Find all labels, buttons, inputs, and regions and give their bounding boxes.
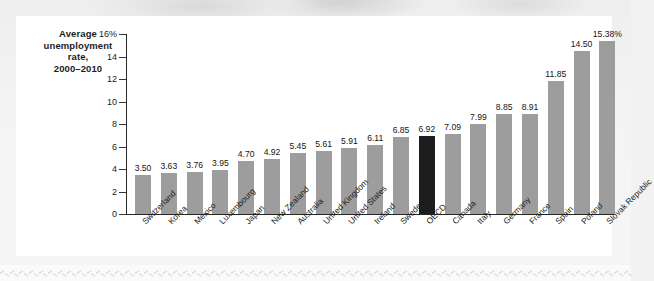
scallop-caret-icon [489, 269, 499, 278]
bar-value-label: 6.92 [418, 124, 435, 134]
scallop-caret-icon [624, 269, 634, 278]
scallop-caret-icon [125, 269, 135, 278]
bar-column[interactable]: 11.85 [548, 81, 564, 214]
bar-value-label: 3.95 [212, 158, 229, 168]
scallop-caret-icon [134, 269, 144, 278]
bar-value-label: 11.85 [545, 69, 566, 79]
bar-column[interactable]: 3.50 [135, 175, 151, 214]
y-tick-mark [119, 34, 126, 35]
bar[interactable] [548, 81, 564, 214]
y-tick-label: 4 [112, 164, 117, 174]
scallop-caret-icon [154, 269, 164, 278]
bar-value-label: 5.61 [315, 139, 332, 149]
bar-value-label: 6.85 [393, 125, 410, 135]
y-tick-mark [119, 214, 126, 215]
scallop-caret-icon [173, 269, 183, 278]
scallop-caret-icon [19, 269, 29, 278]
bar-column[interactable]: 6.85 [393, 137, 409, 214]
scallop-caret-icon [470, 269, 480, 278]
scallop-caret-icon [58, 269, 68, 278]
scallop-caret-icon [556, 269, 566, 278]
scallop-caret-icon [393, 269, 403, 278]
scallop-caret-icon [326, 269, 336, 278]
scallop-caret-icon [528, 269, 538, 278]
scallop-caret-icon [230, 269, 240, 278]
y-tick-label: 16% [99, 29, 117, 39]
scallop-caret-icon [461, 269, 471, 278]
bar[interactable] [496, 114, 512, 214]
scallop-caret-icon [201, 269, 211, 278]
scallop-caret-icon [278, 269, 288, 278]
scallop-caret-icon [38, 269, 48, 278]
scallop-caret-icon [518, 269, 528, 278]
bar-column[interactable]: 15.38% [599, 41, 615, 214]
bar-series: 3.503.633.763.954.704.925.455.615.916.11… [126, 34, 614, 214]
bar-value-label: 5.91 [341, 136, 358, 146]
scallop-caret-icon [317, 269, 327, 278]
scallop-caret-icon [163, 269, 173, 278]
scallop-caret-icon [106, 269, 116, 278]
scallop-caret-icon [441, 269, 451, 278]
scallop-caret-icon [48, 269, 58, 278]
scallop-caret-icon [144, 269, 154, 278]
y-tick-mark [119, 102, 126, 103]
scallop-caret-icon [614, 269, 624, 278]
scallop-caret-icon [547, 269, 557, 278]
bar[interactable] [599, 41, 615, 214]
scallop-caret-icon [374, 269, 384, 278]
scallop-caret-icon [29, 269, 39, 278]
plot-area: 16%14121086420 3.503.633.763.954.704.925… [126, 34, 618, 216]
bar-value-label: 4.92 [264, 147, 281, 157]
scallop-caret-icon [537, 269, 547, 278]
bar[interactable] [187, 172, 203, 214]
bar[interactable] [445, 134, 461, 214]
bar[interactable] [135, 175, 151, 214]
scallop-caret-icon [499, 269, 509, 278]
y-tick-label: 6 [112, 142, 117, 152]
y-tick-label: 0 [112, 209, 117, 219]
scallop-caret-icon [345, 269, 355, 278]
bar-column[interactable]: 14.50 [574, 51, 590, 214]
scallop-caret-icon [566, 269, 576, 278]
scallop-caret-icon [288, 269, 298, 278]
chart-card: Average unemployment rate, 2000–2010 16%… [16, 16, 612, 256]
scallop-caret-icon [451, 269, 461, 278]
bar[interactable] [574, 51, 590, 214]
decorative-scallop-strip [0, 265, 631, 281]
bar[interactable] [393, 137, 409, 214]
scallop-caret-icon [365, 269, 375, 278]
bar-value-label: 6.11 [367, 133, 383, 143]
bar[interactable] [264, 159, 280, 214]
scallop-caret-icon [0, 269, 10, 278]
scallop-caret-icon [77, 269, 87, 278]
scallop-caret-icon [297, 269, 307, 278]
bar-value-label: 7.99 [470, 112, 487, 122]
bar-value-label: 4.70 [238, 149, 255, 159]
y-axis-title-line-2: unemployment [30, 40, 126, 52]
scallop-caret-icon [192, 269, 202, 278]
scallop-caret-icon [355, 269, 365, 278]
scallop-caret-icon [384, 269, 394, 278]
bar-column[interactable]: 4.92 [264, 159, 280, 214]
bar-column[interactable]: 7.09 [445, 134, 461, 214]
y-tick-mark [119, 169, 126, 170]
bar-value-label: 8.85 [496, 102, 513, 112]
scallop-caret-icon [259, 269, 269, 278]
bar-column[interactable]: 8.85 [496, 114, 512, 214]
scallop-caret-icon [86, 269, 96, 278]
bar-column[interactable]: 3.76 [187, 172, 203, 214]
bar-value-label: 7.09 [444, 122, 461, 132]
scallop-caret-icon [413, 269, 423, 278]
scallop-caret-icon [422, 269, 432, 278]
y-tick-label: 2 [112, 187, 117, 197]
scallop-caret-icon [96, 269, 106, 278]
y-tick-mark [119, 147, 126, 148]
scallop-caret-icon [604, 269, 614, 278]
scallop-caret-icon [576, 269, 586, 278]
bar-value-label: 14.50 [571, 39, 593, 49]
scallop-caret-icon [240, 269, 250, 278]
scallop-caret-icon [221, 269, 231, 278]
y-tick-mark [119, 79, 126, 80]
y-tick-label: 8 [112, 119, 117, 129]
